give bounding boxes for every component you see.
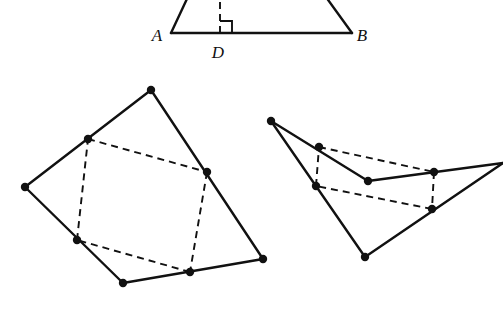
vertex-dot	[186, 268, 194, 276]
vertex-dot	[361, 253, 369, 261]
vertex-dot	[428, 205, 436, 213]
vertex-dot	[315, 143, 323, 151]
vertex-dot	[312, 182, 320, 190]
vertex-dot	[73, 236, 81, 244]
vertex-dot	[203, 168, 211, 176]
geometry-figure-canvas: ABD	[0, 0, 503, 322]
vertex-dot	[364, 177, 372, 185]
vertex-dot	[267, 117, 275, 125]
label-a: A	[151, 26, 163, 45]
vertex-dot	[147, 86, 155, 94]
canvas-background	[0, 0, 503, 322]
vertex-dot	[119, 279, 127, 287]
vertex-dot	[259, 255, 267, 263]
vertex-dot	[21, 183, 29, 191]
label-d: D	[211, 43, 225, 62]
vertex-dot	[430, 168, 438, 176]
label-b: B	[357, 26, 368, 45]
vertex-dot	[84, 135, 92, 143]
